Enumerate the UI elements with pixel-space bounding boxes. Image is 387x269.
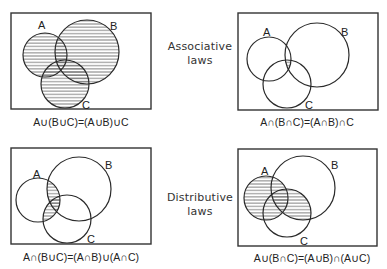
set-b-label: B xyxy=(110,20,117,32)
set-a-label: A xyxy=(263,26,271,38)
set-c-label: C xyxy=(82,99,90,111)
set-b-label: B xyxy=(105,159,112,171)
formula-label: A∩(B∪C)=(A∩B)∪(A∩C) xyxy=(23,251,139,263)
set-c-label: C xyxy=(305,99,313,111)
panel-associative-intersection: A B C A∩(B∩C)=(A∩B)∩C xyxy=(238,13,378,128)
venn-diagram-figure: A B C A∪(B∪C)=(A∪B)∪C A B C A∩(B∩C)=(A∩B… xyxy=(0,0,387,269)
law-title-line2: laws xyxy=(187,205,212,218)
set-a-circle xyxy=(247,37,291,81)
panel-distributive-intersection: A B C A∩(B∪C)=(A∩B)∪(A∩C) xyxy=(11,148,151,263)
law-title-line1: Associative xyxy=(168,40,232,53)
set-a-label: A xyxy=(261,165,269,177)
set-c-label: C xyxy=(87,233,95,245)
set-b-label: B xyxy=(341,26,348,38)
set-b-circle xyxy=(285,23,349,87)
distributive-laws-label: Distributive laws xyxy=(167,191,233,218)
set-a-label: A xyxy=(38,19,46,31)
set-b-label: B xyxy=(331,159,338,171)
panel-associative-union: A B C A∪(B∪C)=(A∪B)∪C xyxy=(11,13,151,128)
universe-box xyxy=(11,148,151,244)
shaded-region-union xyxy=(23,20,119,108)
panel-distributive-union: A B C A∪(B∩C)=(A∪B)∩(A∪C) xyxy=(238,149,377,264)
law-title-line1: Distributive xyxy=(167,191,233,204)
formula-label: A∪(B∪C)=(A∪B)∪C xyxy=(33,116,129,128)
set-c-label: C xyxy=(300,235,308,247)
law-title-line2: laws xyxy=(187,54,212,67)
set-a-label: A xyxy=(33,168,41,180)
formula-label: A∪(B∩C)=(A∪B)∩(A∪C) xyxy=(254,252,370,264)
formula-label: A∩(B∩C)=(A∩B)∩C xyxy=(260,116,354,128)
associative-laws-label: Associative laws xyxy=(168,40,232,67)
